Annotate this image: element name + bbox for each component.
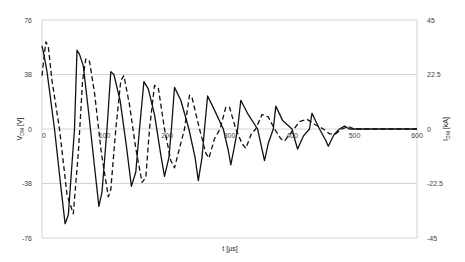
y-right-tick: -45 <box>427 235 437 242</box>
y-right-tick: 22.5 <box>427 71 441 78</box>
y-axis-left-label: VDM [V] <box>16 117 25 140</box>
y-left-tick: -76 <box>22 235 32 242</box>
y-left-tick: 76 <box>24 17 32 24</box>
y-right-tick: 45 <box>427 17 435 24</box>
x-tick: 0 <box>42 132 46 139</box>
y-right-tick: -22.5 <box>427 180 443 187</box>
svg-text:VDM [V]: VDM [V] <box>16 117 25 140</box>
x-tick: 100 <box>99 132 111 139</box>
y-axis-right-label: IDM [kA] <box>442 117 451 141</box>
x-axis-label: t [µs] <box>222 245 237 253</box>
x-tick: 500 <box>349 132 361 139</box>
chart: 76453822.500-38-22.5-76-4501002003004005… <box>0 0 465 262</box>
svg-text:IDM [kA]: IDM [kA] <box>442 117 451 141</box>
y-right-tick: 0 <box>427 126 431 133</box>
current-series-line <box>42 42 417 214</box>
x-tick: 400 <box>286 132 298 139</box>
x-tick: 600 <box>411 132 423 139</box>
y-left-tick: 0 <box>28 126 32 133</box>
y-left-tick: 38 <box>24 71 32 78</box>
y-left-tick: -38 <box>22 180 32 187</box>
